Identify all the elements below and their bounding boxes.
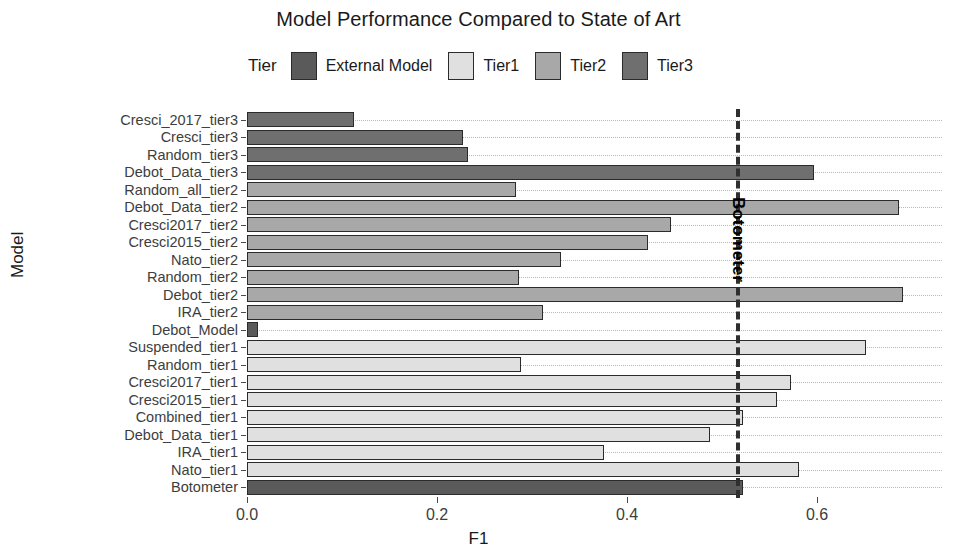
y-tick-mark [241,260,246,261]
y-tick-mark [241,487,246,488]
bar[interactable] [247,200,899,215]
legend-item[interactable]: External Model [291,52,433,80]
legend-swatch-icon [535,52,561,80]
legend-swatch-icon [622,52,648,80]
bar[interactable] [247,392,777,407]
bar[interactable] [247,410,743,425]
bar[interactable] [247,165,814,180]
y-tick-mark [241,312,246,313]
bar[interactable] [247,182,516,197]
reference-line-label: Botometer [728,197,748,282]
y-tick-mark [241,330,246,331]
legend-item-label: Tier2 [570,57,606,75]
y-tick-mark [241,155,246,156]
x-tick-mark [817,497,818,503]
bar[interactable] [247,480,743,495]
x-tick-mark [437,497,438,503]
y-tick-label: Cresci2015_tier2 [128,234,238,250]
y-tick-mark [241,295,246,296]
bar[interactable] [247,270,519,285]
y-tick-mark [241,207,246,208]
y-tick-mark [241,277,246,278]
y-tick-mark [241,452,246,453]
bar[interactable] [247,427,710,442]
chart-figure: Model Performance Compared to State of A… [0,0,957,556]
plot-panel [247,111,942,496]
y-tick-mark [241,347,246,348]
y-tick-label: Debot_tier2 [163,287,238,303]
y-tick-label: Cresci2017_tier1 [128,374,238,390]
y-tick-label: Cresci_2017_tier3 [120,112,238,128]
y-tick-label: IRA_tier1 [178,444,238,460]
x-tick-label: 0.6 [806,506,828,524]
y-tick-label: Cresci2017_tier2 [128,217,238,233]
legend-item[interactable]: Tier2 [535,52,606,80]
y-tick-label: Debot_Data_tier1 [124,427,238,443]
y-tick-label: Random_tier1 [147,357,238,373]
y-tick-label: Cresci2015_tier1 [128,392,238,408]
y-tick-label: Debot_Model [152,322,238,338]
legend-item-label: Tier1 [483,57,519,75]
bar[interactable] [247,357,521,372]
x-axis-title: F1 [0,529,957,549]
y-tick-label: Random_all_tier2 [124,182,238,198]
x-tick-mark [627,497,628,503]
x-tick-label: 0.0 [236,506,258,524]
legend: Tier External ModelTier1Tier2Tier3 [0,52,957,80]
bar[interactable] [247,217,671,232]
bar[interactable] [247,462,799,477]
bar[interactable] [247,305,543,320]
y-tick-mark [241,365,246,366]
bar[interactable] [247,322,258,337]
y-tick-label: Nato_tier1 [171,462,238,478]
y-tick-mark [241,172,246,173]
y-tick-mark [241,435,246,436]
bar[interactable] [247,287,903,302]
chart-title: Model Performance Compared to State of A… [0,8,957,31]
x-tick-label: 0.2 [426,506,448,524]
legend-item-label: Tier3 [657,57,693,75]
y-tick-label: Random_tier2 [147,269,238,285]
y-tick-mark [241,225,246,226]
y-tick-mark [241,190,246,191]
bar[interactable] [247,130,463,145]
legend-item-label: External Model [326,57,433,75]
y-tick-mark [241,137,246,138]
bar[interactable] [247,375,791,390]
y-tick-mark [241,382,246,383]
y-tick-label: IRA_tier2 [178,304,238,320]
y-tick-label: Nato_tier2 [171,252,238,268]
y-axis-title: Model [8,232,28,278]
y-tick-label: Cresci_tier3 [161,129,238,145]
y-tick-label: Random_tier3 [147,147,238,163]
y-tick-label: Debot_Data_tier3 [124,164,238,180]
y-tick-mark [241,120,246,121]
bar[interactable] [247,252,561,267]
y-tick-mark [241,400,246,401]
bar[interactable] [247,340,866,355]
y-tick-label: Suspended_tier1 [128,339,238,355]
y-tick-label: Combined_tier1 [136,409,238,425]
y-tick-label: Botometer [171,479,238,495]
bar[interactable] [247,112,354,127]
reference-line-botometer [736,109,740,498]
legend-item[interactable]: Tier3 [622,52,693,80]
gridline [247,330,942,331]
legend-item[interactable]: Tier1 [448,52,519,80]
x-tick-label: 0.4 [616,506,638,524]
y-tick-mark [241,242,246,243]
bar[interactable] [247,147,468,162]
y-tick-label: Debot_Data_tier2 [124,199,238,215]
legend-swatch-icon [448,52,474,80]
y-tick-mark [241,470,246,471]
legend-swatch-icon [291,52,317,80]
bar[interactable] [247,445,604,460]
bar[interactable] [247,235,648,250]
x-tick-mark [247,497,248,503]
legend-title: Tier [248,56,277,76]
y-tick-mark [241,417,246,418]
